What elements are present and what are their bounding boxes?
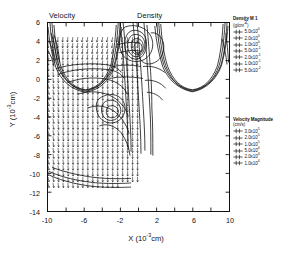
y-axis-title-units-exp: -3: [6, 104, 12, 109]
y-tick-label: -6: [14, 132, 40, 141]
density-legend-row: 1.0x100: [233, 41, 261, 47]
velocity-legend-marker-icon: [233, 128, 243, 134]
y-tick-label: -2: [14, 94, 40, 103]
figure-root: Velocity Density: [0, 0, 292, 253]
density-legend-row: 2.0x10-1: [233, 54, 261, 60]
x-axis-title-units-base: (10: [135, 234, 146, 243]
density-legend-marker-icon: [233, 67, 243, 73]
density-legend: Density M 1 (g/cm3) 5.0x1002.0x1001.0x10…: [233, 17, 261, 73]
velocity-legend-marker-icon: [233, 135, 243, 141]
x-axis-title: X (10-3cm): [0, 234, 292, 243]
y-axis-title: Y (10-3cm): [8, 65, 17, 155]
x-tick-label: -6: [72, 216, 96, 225]
density-legend-marker-icon: [233, 29, 243, 35]
density-legend-entries: 5.0x1002.0x1001.0x1005.0x10-12.0x10-11.0…: [233, 29, 261, 74]
velocity-legend-marker-icon: [233, 141, 243, 147]
velocity-vector-layer: [48, 23, 229, 211]
velocity-legend-row: 1.0x104: [233, 160, 273, 166]
y-tick-label: 2: [14, 56, 40, 65]
density-legend-value: 5.0x10-2: [245, 68, 261, 73]
velocity-panel-title: Velocity: [49, 11, 75, 20]
velocity-legend-marker-icon: [233, 154, 243, 160]
y-tick-label: -12: [14, 189, 40, 198]
x-tick-label: 10: [218, 216, 242, 225]
x-tick-label: -10: [35, 216, 59, 225]
x-axis-title-symbol: X: [128, 234, 133, 243]
density-legend-units: (g/cm3): [233, 22, 261, 28]
velocity-legend-marker-icon: [233, 148, 243, 154]
density-panel-title: Density: [137, 11, 162, 20]
y-tick-label: 4: [14, 37, 40, 46]
density-legend-row: 2.0x100: [233, 35, 261, 41]
density-legend-row: 5.0x10-2: [233, 67, 261, 73]
y-tick-label: 0: [14, 75, 40, 84]
velocity-legend-marker-icon: [233, 160, 243, 166]
x-tick-label: 6: [182, 216, 206, 225]
plot-area: [47, 22, 230, 212]
velocity-legend-value: 1.0x104: [245, 161, 260, 166]
velocity-legend-entries: 3.0x1052.0x1051.0x1055.0x1042.0x1041.0x1…: [233, 128, 273, 166]
density-legend-marker-icon: [233, 42, 243, 48]
density-legend-marker-icon: [233, 35, 243, 41]
density-legend-marker-icon: [233, 54, 243, 60]
y-tick-label: -8: [14, 151, 40, 160]
y-tick-label: -4: [14, 113, 40, 122]
density-legend-units-tail: ): [247, 22, 248, 27]
x-tick-label: 2: [145, 216, 169, 225]
y-axis-title-units-tail: cm): [8, 92, 17, 105]
y-tick-label: 6: [14, 18, 40, 27]
y-axis-title-symbol: Y: [8, 122, 17, 127]
velocity-legend: Velocity Magnitude (cm/s) 3.0x1052.0x105…: [233, 118, 273, 167]
velocity-legend-units-base: (cm/s): [233, 122, 245, 127]
density-legend-marker-icon: [233, 48, 243, 54]
y-tick-label: -10: [14, 170, 40, 179]
density-legend-units-base: (g/cm: [233, 22, 244, 27]
velocity-legend-units: (cm/s): [233, 123, 273, 128]
x-tick-label: -2: [108, 216, 132, 225]
density-legend-marker-icon: [233, 61, 243, 67]
y-axis-title-units-base: (10: [8, 109, 17, 120]
x-axis-title-units-tail: cm): [151, 234, 164, 243]
